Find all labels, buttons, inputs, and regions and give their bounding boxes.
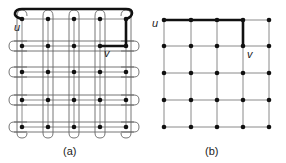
panel-a-label-u: u — [14, 21, 20, 33]
panel-b-label-u: u — [152, 17, 158, 29]
panel-b-caption: (b) — [205, 145, 218, 157]
panel-a-label-v: v — [104, 47, 111, 59]
figure-canvas: u v (a) u v (b) — [0, 0, 286, 163]
panel-b-bold-path — [164, 20, 243, 46]
panel-a-caption: (a) — [63, 145, 76, 157]
panel-b-label-v: v — [247, 48, 254, 60]
panel-b: u v (b) — [152, 17, 271, 157]
panel-a-bold-path — [15, 9, 132, 46]
panel-a: u v (a) — [9, 9, 139, 157]
